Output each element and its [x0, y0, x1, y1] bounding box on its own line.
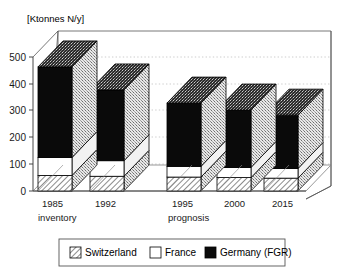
group-label-inventory: inventory — [38, 212, 77, 223]
bar-group — [90, 64, 149, 191]
bar-front-face — [167, 103, 201, 166]
bar-front-face — [167, 177, 201, 191]
bar-group — [38, 41, 97, 191]
chart-legend: Switzerland France Germany (FGR) — [59, 239, 292, 266]
x-label-2015: 2015 — [272, 198, 293, 209]
x-label-1985: 1985 — [42, 198, 63, 209]
bar-front-face — [38, 67, 72, 158]
chart-container: [Ktonnes N/y] — [0, 0, 341, 274]
bar-front-face — [167, 166, 201, 177]
x-label-2000: 2000 — [224, 198, 245, 209]
y-tick-100: 100 — [9, 159, 26, 170]
y-tick-300: 300 — [9, 105, 26, 116]
y-tick-200: 200 — [9, 132, 26, 143]
legend-swatch-germany — [205, 247, 216, 258]
legend-label-switzerland: Switzerland — [85, 247, 137, 258]
legend-swatch-switzerland — [70, 247, 81, 258]
axis-unit-label: [Ktonnes N/y] — [27, 13, 84, 24]
bar-front-face — [38, 158, 72, 176]
y-tick-0: 0 — [20, 186, 26, 197]
y-tick-400: 400 — [9, 79, 26, 90]
legend-swatch-france — [150, 247, 161, 258]
x-label-1992: 1992 — [95, 198, 116, 209]
legend-label-germany: Germany (FGR) — [220, 247, 292, 258]
group-label-prognosis: prognosis — [168, 212, 209, 223]
y-tick-500: 500 — [9, 52, 26, 63]
bar-front-face — [264, 178, 298, 191]
bar-front-face — [90, 176, 124, 191]
bar-front-face — [38, 175, 72, 191]
bar-front-face — [217, 178, 251, 191]
bar-chart-svg: [Ktonnes N/y] — [0, 0, 341, 274]
legend-label-france: France — [165, 247, 197, 258]
x-label-1995: 1995 — [172, 198, 193, 209]
